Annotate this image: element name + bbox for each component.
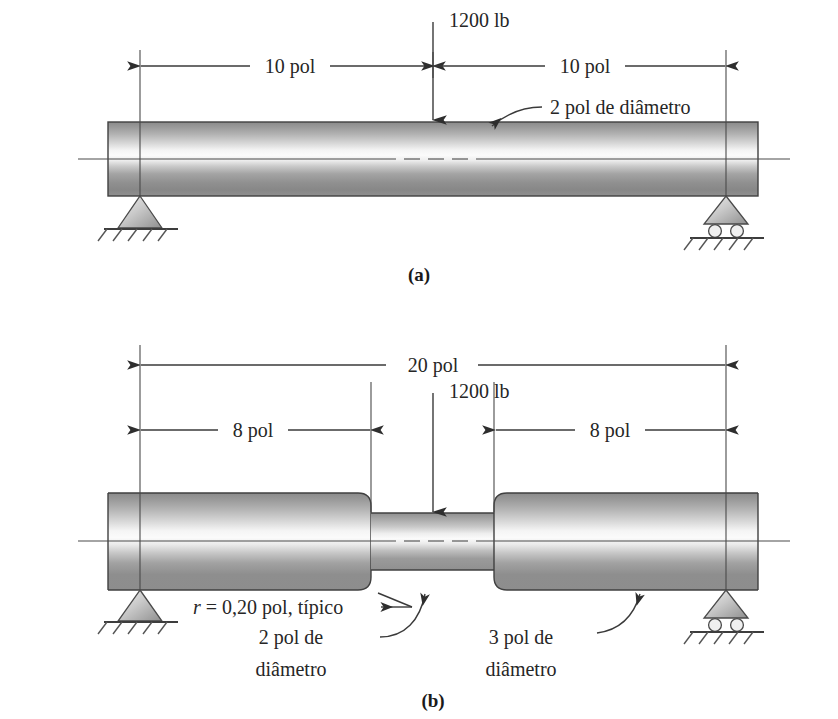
dimension-a-left: 10 pol: [141, 55, 432, 78]
large-diameter-label-line1: 3 pol de: [489, 626, 554, 649]
dimension-b-left: 8 pol: [141, 419, 370, 442]
support-pin-b: [98, 590, 178, 634]
large-diameter-callout-b: 3 pol de diâmetro: [485, 594, 640, 680]
subfigure-a: 10 pol 10 pol 1200 lb 2 pol de diâmetro: [78, 9, 790, 286]
dimension-label-a-right: 10 pol: [560, 55, 611, 78]
load-label-b: 1200 lb: [449, 380, 510, 402]
dimension-label-b-right: 8 pol: [590, 419, 631, 442]
subfigure-b: 20 pol 8 pol 8 pol 1200 lb: [78, 345, 790, 712]
support-pin-a: [98, 196, 178, 241]
dimension-label-b-left: 8 pol: [233, 419, 274, 442]
dimension-label-b-overall: 20 pol: [408, 354, 459, 377]
dimension-label-a-left: 10 pol: [265, 55, 316, 78]
support-roller-a: [684, 196, 764, 250]
dimension-a-right: 10 pol: [435, 55, 725, 78]
figure-canvas: 10 pol 10 pol 1200 lb 2 pol de diâmetro: [0, 0, 838, 719]
load-label-a: 1200 lb: [449, 9, 510, 31]
beam-diagram-svg: 10 pol 10 pol 1200 lb 2 pol de diâmetro: [0, 0, 838, 719]
small-diameter-label-line2: diâmetro: [255, 658, 326, 680]
subfigure-caption-a: (a): [408, 264, 430, 286]
dimension-b-right: 8 pol: [496, 419, 725, 442]
fillet-callout-label-b: r = 0,20 pol, típico: [193, 596, 343, 619]
subfigure-caption-b: (b): [421, 690, 444, 712]
load-arrow-a: 1200 lb: [433, 9, 510, 120]
large-diameter-label-line2: diâmetro: [485, 658, 556, 680]
fillet-symbol: r: [193, 596, 201, 618]
dimension-b-overall: 20 pol: [141, 354, 725, 377]
diameter-callout-label-a: 2 pol de diâmetro: [550, 96, 691, 119]
fillet-callout-b: r = 0,20 pol, típico: [193, 593, 412, 619]
support-roller-b: [684, 590, 764, 644]
small-diameter-label-line1: 2 pol de: [259, 626, 324, 649]
fillet-value-text: = 0,20 pol, típico: [201, 596, 343, 619]
load-arrow-b: 1200 lb: [433, 380, 510, 512]
